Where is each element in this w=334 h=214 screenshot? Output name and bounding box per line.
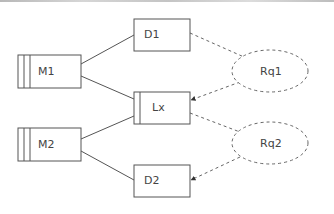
node-d2-label: D2 — [144, 174, 159, 187]
node-m2-label: M2 — [38, 138, 55, 151]
edge-m2-d2 — [81, 151, 134, 180]
node-d1[interactable]: D1 — [134, 19, 190, 51]
solid-edges — [81, 35, 134, 180]
edge-rq1-lx — [191, 82, 240, 100]
edge-d1-rq1 — [190, 33, 244, 57]
node-rq2-label: Rq2 — [260, 137, 282, 150]
node-rq1-label: Rq1 — [260, 65, 282, 78]
edge-rq2-d2 — [191, 157, 240, 180]
edge-m1-d1 — [81, 35, 134, 64]
node-m1[interactable]: M1 — [18, 55, 81, 88]
edge-m1-lx — [81, 76, 134, 99]
node-m1-label: M1 — [38, 65, 55, 78]
node-d2[interactable]: D2 — [134, 165, 190, 197]
edge-m2-lx — [81, 116, 134, 139]
node-m2[interactable]: M2 — [18, 128, 81, 161]
node-rq2[interactable]: Rq2 — [232, 122, 308, 164]
node-rq1[interactable]: Rq1 — [232, 50, 308, 92]
node-lx-label: Lx — [152, 101, 165, 114]
dashed-edges — [190, 33, 244, 180]
edge-lx-rq2 — [190, 113, 240, 132]
node-lx[interactable]: Lx — [134, 92, 190, 124]
node-d1-label: D1 — [144, 28, 159, 41]
diagram-canvas: M1 M2 D1 Lx D2 Rq1 Rq2 — [0, 0, 334, 214]
